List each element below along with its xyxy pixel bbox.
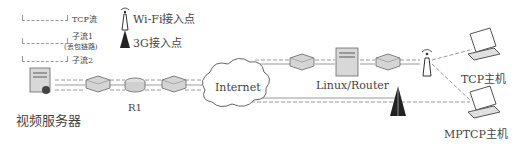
legend-wifi-icon — [121, 8, 129, 30]
router-r1-icon — [125, 78, 145, 92]
tcp-host-label: TCP主机 — [461, 70, 506, 86]
linux-router-label: Linux/Router — [316, 79, 389, 92]
wifi-ap-icon — [422, 50, 432, 77]
tcp-host-laptop-icon — [468, 28, 500, 60]
video-server-label: 视频服务器 — [16, 110, 81, 129]
legend-3g-icon — [120, 30, 130, 48]
switch-3-icon — [290, 54, 314, 70]
mptcp-host-label: MPTCP主机 — [444, 125, 508, 141]
video-server-icon — [30, 68, 50, 94]
mptcp-host-laptop-icon — [468, 86, 500, 118]
cell-tower-icon — [390, 86, 406, 116]
switch-2-icon — [162, 76, 186, 92]
linux-router-icon — [336, 48, 358, 76]
internet-label: Internet — [215, 81, 261, 94]
switch-1-icon — [86, 76, 110, 92]
switch-4-icon — [376, 54, 400, 70]
r1-label: R1 — [128, 102, 142, 113]
